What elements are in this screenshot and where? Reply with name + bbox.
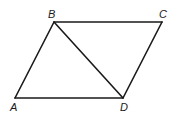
- parallelogram-diagram: B C A D: [0, 0, 175, 122]
- vertex-label-d: D: [120, 101, 128, 113]
- vertex-label-a: A: [9, 101, 17, 113]
- vertex-label-c: C: [159, 8, 167, 20]
- segment-cd: [123, 22, 162, 98]
- diagonal-bd: [54, 22, 123, 98]
- segment-ab: [15, 22, 54, 98]
- vertex-label-b: B: [48, 8, 55, 20]
